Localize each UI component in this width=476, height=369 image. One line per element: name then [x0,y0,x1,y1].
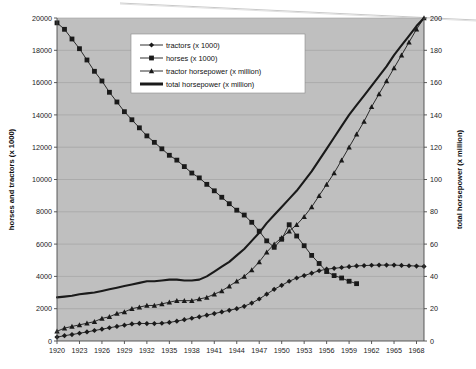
y2-tick-label: 200 [430,14,442,23]
legend-label: total horsepower (x million) [166,80,254,89]
y-tick-label: 6000 [36,240,52,249]
y2-tick-label: 0 [430,337,434,346]
y2-tick-label: 120 [430,143,442,152]
x-tick-label: 1956 [319,346,335,355]
y-tick-label: 0 [48,337,52,346]
chart-legend: tractors (x 1000)horses (x 1000)tractor … [131,34,305,93]
x-tick-label: 1938 [184,346,200,355]
y-axis-title: horses and tractors (x 1000) [7,128,16,230]
x-tick-label: 1968 [409,346,425,355]
x-tick-label: 1953 [296,346,312,355]
y-tick-label: 10000 [32,175,52,184]
y-tick-label: 2000 [36,304,52,313]
farm-power-line-chart: 0200040006000800010000120001400016000180… [0,0,476,369]
x-tick-label: 1923 [71,346,87,355]
x-tick-label: 1926 [94,346,110,355]
y-tick-label: 20000 [32,14,52,23]
y2-tick-label: 60 [430,240,438,249]
x-tick-label: 1947 [251,346,267,355]
y-tick-label: 16000 [32,78,52,87]
x-tick-label: 1920 [49,346,65,355]
y-tick-label: 8000 [36,207,52,216]
y2-tick-label: 160 [430,78,442,87]
x-tick-label: 1929 [116,346,132,355]
y-tick-label: 14000 [32,111,52,120]
x-tick-label: 1941 [206,346,222,355]
y2-tick-label: 80 [430,207,438,216]
y-tick-label: 12000 [32,143,52,152]
chart-figure: 0200040006000800010000120001400016000180… [0,0,476,369]
legend-label: tractors (x 1000) [166,41,220,50]
legend-label: horses (x 1000) [166,54,217,63]
y2-tick-label: 40 [430,272,438,281]
y2-tick-label: 100 [430,175,442,184]
x-tick-label: 1932 [139,346,155,355]
y-tick-label: 18000 [32,46,52,55]
x-tick-label: 1944 [229,346,245,355]
x-tick-label: 1965 [386,346,402,355]
x-tick-label: 1950 [274,346,290,355]
y2-axis-title-text: total horsepower (x million) [455,129,464,229]
legend-label: tractor horsepower (x million) [166,67,261,76]
x-tick-label: 1962 [364,346,380,355]
y2-axis-title: total horsepower (x million) [455,129,464,229]
x-tick-label: 1935 [161,346,177,355]
y2-tick-label: 20 [430,304,438,313]
y2-tick-label: 180 [430,46,442,55]
y-tick-label: 4000 [36,272,52,281]
x-tick-label: 1959 [341,346,357,355]
y2-tick-label: 140 [430,111,442,120]
y-axis-title-text: horses and tractors (x 1000) [7,128,16,230]
